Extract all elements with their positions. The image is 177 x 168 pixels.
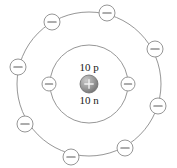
electron-outer-right: [150, 98, 166, 114]
proton-count-label: 10 p: [79, 61, 99, 73]
electron-outer-left: [10, 59, 26, 75]
electron-inner-right: [121, 77, 135, 91]
electron-outer-lower-right: [117, 140, 133, 156]
electron-outer-lower-left: [17, 116, 33, 132]
electron-inner-left: [42, 77, 56, 91]
nucleus-group: 10 p10 n: [79, 61, 99, 106]
bohr-atom-diagram: 10 p10 n: [0, 0, 177, 168]
electron-outer-bottom: [63, 149, 79, 165]
atom-canvas: 10 p10 n: [0, 0, 177, 168]
electron-outer-upper-left: [44, 14, 60, 30]
electron-outer-upper-right: [147, 41, 163, 57]
neutron-count-label: 10 n: [79, 94, 99, 106]
electron-outer-top: [99, 5, 115, 21]
